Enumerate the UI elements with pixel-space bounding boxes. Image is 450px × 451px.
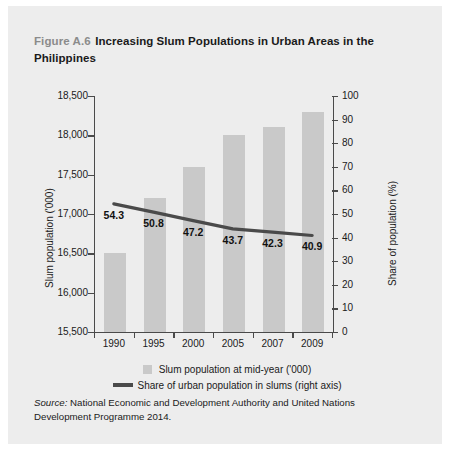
x-axis-tick-mark — [332, 333, 333, 338]
chart-area: Slum population ('000) Share of populati… — [32, 78, 422, 368]
line-data-labels: 54.350.847.243.742.340.9 — [95, 96, 333, 332]
x-axis-tick-mark — [173, 333, 174, 338]
x-axis-tick-label-2009: 2009 — [290, 338, 334, 349]
y-axis-right-tick-label: 30 — [342, 255, 382, 266]
y-axis-left-tick-label: 16,000 — [38, 287, 88, 298]
data-label-2007: 42.3 — [262, 237, 282, 249]
y-axis-left-tick-label: 18,000 — [38, 129, 88, 140]
data-label-2009: 40.9 — [302, 240, 322, 252]
legend-item-bar: Slum population at mid-year ('000) — [32, 361, 422, 377]
y-axis-left-tick-label: 17,000 — [38, 208, 88, 219]
legend-label-line: Share of urban population in slums (righ… — [138, 380, 342, 391]
data-label-2000: 47.2 — [183, 226, 203, 238]
legend-item-line: Share of urban population in slums (righ… — [32, 377, 422, 393]
x-axis-tick-label-2007: 2007 — [251, 338, 295, 349]
figure-panel: Figure A.6 Increasing Slum Populations i… — [8, 6, 442, 444]
x-axis-tick-mark — [292, 333, 293, 338]
figure-title-block: Figure A.6 Increasing Slum Populations i… — [34, 32, 404, 66]
data-label-1990: 54.3 — [104, 209, 124, 221]
y-axis-right-tick-label: 10 — [342, 302, 382, 313]
x-axis-tick-mark — [134, 333, 135, 338]
y-axis-right-tick-label: 0 — [342, 326, 382, 337]
y-axis-left-title: Slum population ('000) — [44, 188, 55, 288]
x-axis-tick-mark — [94, 333, 95, 338]
y-axis-left-tick-label: 18,500 — [38, 90, 88, 101]
x-axis-tick-mark — [213, 333, 214, 338]
y-axis-right-tick-label: 100 — [342, 90, 382, 101]
x-axis-tick-mark — [253, 333, 254, 338]
data-label-1995: 50.8 — [143, 217, 163, 229]
y-axis-right-tick-label: 70 — [342, 161, 382, 172]
x-axis-tick-label-1990: 1990 — [92, 338, 136, 349]
y-axis-right-tick-label: 90 — [342, 114, 382, 125]
y-axis-left-tick-label: 15,500 — [38, 326, 88, 337]
source-note: Source: National Economic and Developmen… — [34, 396, 394, 423]
y-axis-right-tick-label: 80 — [342, 137, 382, 148]
source-text: National Economic and Development Author… — [34, 397, 355, 422]
legend-line-icon — [113, 383, 133, 386]
y-axis-right-tick-label: 40 — [342, 232, 382, 243]
y-axis-left-tick-label: 17,500 — [38, 169, 88, 180]
legend-swatch-icon — [143, 365, 152, 374]
y-axis-right-title: Share of population (%) — [387, 181, 398, 286]
data-label-2005: 43.7 — [223, 234, 243, 246]
y-axis-right-tick-label: 60 — [342, 184, 382, 195]
legend-label-bar: Slum population at mid-year ('000) — [159, 364, 312, 375]
legend: Slum population at mid-year ('000) Share… — [32, 361, 422, 393]
x-axis-tick-label-2000: 2000 — [171, 338, 215, 349]
x-axis-tick-label-2005: 2005 — [211, 338, 255, 349]
y-axis-right-tick-label: 50 — [342, 208, 382, 219]
figure-number: Figure A.6 — [34, 35, 91, 47]
y-axis-right-tick-label: 20 — [342, 279, 382, 290]
y-axis-left-tick-label: 16,500 — [38, 247, 88, 258]
source-label: Source: — [34, 397, 67, 408]
x-axis-tick-label-1995: 1995 — [132, 338, 176, 349]
